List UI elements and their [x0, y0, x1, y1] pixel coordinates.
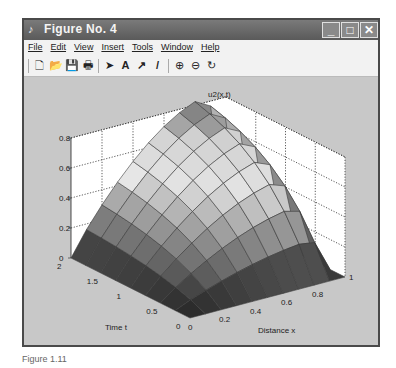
- x-tick-label: 0.8: [312, 290, 324, 299]
- z-tick-label: 0.8: [59, 134, 71, 143]
- t-tick-label: 1.5: [87, 277, 99, 286]
- t-tick-label: 1: [117, 292, 122, 301]
- x-tick-label: 0.2: [219, 315, 231, 324]
- figure-caption: Figure 1.11: [22, 354, 67, 364]
- z-tick-label: 0.6: [59, 164, 71, 173]
- z-tick-label: 0.4: [59, 194, 71, 203]
- x-tick-label: 0: [188, 323, 193, 332]
- t-tick-label: 0.5: [146, 307, 158, 316]
- z-tick-label: 0.2: [59, 224, 71, 233]
- x-tick-label: 1: [349, 273, 354, 282]
- surface-plot[interactable]: u2(x,t) Distance x Time t 00.20.40.60.80…: [0, 0, 396, 368]
- x-tick-label: 0.4: [250, 307, 262, 316]
- x-axis-label: Distance x: [258, 326, 295, 335]
- t-tick-label: 2: [57, 262, 62, 271]
- x-tick-label: 0.6: [281, 298, 293, 307]
- t-tick-label: 0: [176, 322, 181, 331]
- t-axis-label: Time t: [105, 323, 128, 332]
- plot-title: u2(x,t): [208, 90, 231, 99]
